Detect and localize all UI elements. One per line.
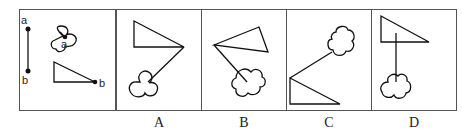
given-panel: [20, 10, 116, 111]
cloud-point-label-a: a: [61, 38, 67, 50]
given-shapes: [28, 26, 95, 82]
option-b-shapes: [214, 27, 268, 96]
option-label-a[interactable]: A: [149, 115, 169, 131]
option-panel-c: [287, 10, 372, 111]
option-panel-a: [117, 10, 202, 111]
point-label-b: b: [22, 74, 28, 86]
option-a-shapes: [129, 21, 184, 97]
puzzle-figure: [0, 0, 462, 136]
option-d-shapes: [381, 16, 429, 98]
option-label-d[interactable]: D: [404, 115, 424, 131]
triangle-shape: [54, 62, 95, 82]
triangle-point-label-b: b: [99, 77, 105, 89]
point-label-a: a: [21, 14, 27, 26]
option-label-c[interactable]: C: [319, 115, 339, 131]
option-panel-b: [202, 10, 287, 111]
option-c-shapes: [290, 26, 354, 104]
option-label-b[interactable]: B: [234, 115, 254, 131]
